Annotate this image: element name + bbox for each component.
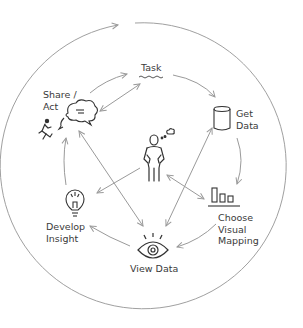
wavy-underline-icon (139, 76, 163, 78)
label-get-data-line2: Data (236, 120, 259, 132)
edge-getdata-to-choose (237, 138, 241, 184)
edge-share-to-task (90, 74, 127, 93)
label-choose-line3: Mapping (218, 235, 259, 247)
bar-chart-icon (208, 188, 240, 206)
label-share-line2: Act (43, 101, 77, 113)
eye-icon (138, 233, 168, 258)
label-insight-line1: Develop (46, 221, 85, 233)
edge-user-choose-both (167, 175, 204, 199)
thinking-person-icon (144, 129, 174, 181)
label-get-data: Get Data (236, 108, 259, 131)
lightbulb-icon (66, 190, 84, 216)
running-person-icon (39, 119, 52, 139)
edge-task-to-getdata (173, 75, 215, 97)
label-get-data-line1: Get (236, 108, 259, 120)
label-view-data: View Data (130, 263, 178, 275)
edge-share-view-both (79, 131, 143, 226)
label-share-act: Share / Act (43, 89, 77, 112)
edge-share-task-both (100, 84, 140, 111)
label-task: Task (141, 62, 162, 74)
label-choose-line2: Visual (218, 224, 259, 236)
label-develop-insight: Develop Insight (46, 221, 85, 244)
edge-insight-to-share (64, 138, 66, 185)
database-cylinder-icon (214, 107, 230, 131)
edge-choose-to-view (177, 224, 216, 247)
edge-view-to-insight (90, 226, 130, 246)
label-insight-line2: Insight (46, 233, 85, 245)
diagram-canvas (0, 0, 303, 328)
edge-view-getdata-both (166, 128, 212, 226)
label-choose-visual-mapping: Choose Visual Mapping (218, 212, 259, 247)
label-choose-line1: Choose (218, 212, 259, 224)
label-share-line1: Share / (43, 89, 77, 101)
